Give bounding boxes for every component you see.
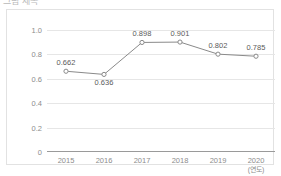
y-axis-tick-label: 0.2 (32, 123, 42, 132)
data-point-label: 0.636 (95, 78, 114, 87)
y-axis-tick-label: 0.4 (32, 99, 42, 108)
data-point-label: 0.785 (247, 43, 266, 52)
data-series (47, 30, 275, 152)
chart-title: 그림 제목 (3, 0, 39, 7)
y-axis-tick-label: 0.6 (32, 74, 42, 83)
chart-figure: 그림 제목 00.20.40.60.81.0201520162017201820… (0, 0, 281, 176)
x-axis-tick-label: 2015 (58, 156, 75, 165)
series-line (66, 42, 256, 74)
data-point-marker[interactable] (140, 40, 144, 44)
data-point-marker[interactable] (102, 72, 106, 76)
data-point-marker[interactable] (64, 69, 68, 73)
x-axis-tick-label: 2020(연도) (248, 156, 265, 174)
y-axis-tick-label: 0.8 (32, 50, 42, 59)
data-point-label: 0.901 (171, 29, 190, 38)
x-axis-tick-label: 2016 (96, 156, 113, 165)
x-axis-unit-label: (연도) (248, 165, 265, 174)
data-point-marker[interactable] (254, 54, 258, 58)
clipped-title-strip: 그림 제목 (0, 0, 281, 7)
y-axis-tick-label: 0 (38, 148, 42, 157)
data-point-label: 0.662 (57, 58, 76, 67)
data-point-marker[interactable] (178, 40, 182, 44)
data-point-marker[interactable] (216, 52, 220, 56)
chart-frame: 00.20.40.60.81.0201520162017201820192020… (6, 9, 274, 165)
plot-area: 00.20.40.60.81.0201520162017201820192020… (47, 30, 275, 152)
x-axis-tick-label: 2017 (134, 156, 151, 165)
x-axis-tick-label: 2018 (172, 156, 189, 165)
data-point-label: 0.802 (209, 41, 228, 50)
data-point-label: 0.898 (133, 29, 152, 38)
x-axis-tick-label: 2019 (210, 156, 227, 165)
y-axis-tick-label: 1.0 (32, 26, 42, 35)
